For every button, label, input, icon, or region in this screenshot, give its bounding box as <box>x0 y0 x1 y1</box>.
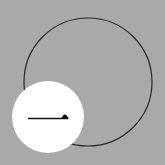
graphic-canvas <box>0 0 165 165</box>
white-badge-circle <box>12 81 84 153</box>
